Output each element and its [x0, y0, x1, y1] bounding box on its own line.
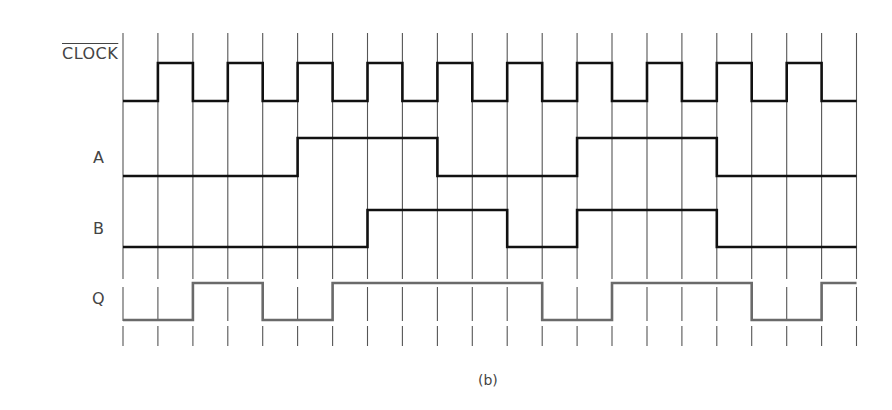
waveform-b	[123, 210, 857, 247]
waveform-clock	[123, 63, 857, 101]
timing-diagram	[0, 0, 892, 410]
label-q: Q	[92, 289, 105, 308]
waveforms	[123, 63, 857, 320]
label-clock: CLOCK	[62, 44, 118, 63]
label-b: B	[93, 219, 104, 238]
waveform-a	[123, 138, 857, 176]
waveform-q	[123, 283, 857, 320]
label-a: A	[93, 148, 104, 167]
vertical-grid-lines	[123, 33, 857, 346]
figure-caption: (b)	[478, 372, 498, 388]
